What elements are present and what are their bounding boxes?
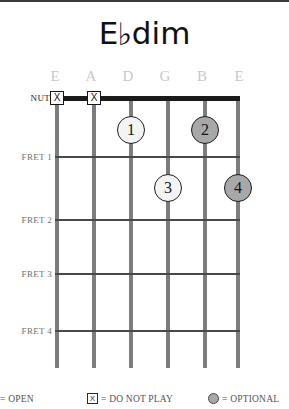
legend-open-label: = OPEN bbox=[0, 394, 34, 404]
mute-marker-string-2[interactable]: X bbox=[87, 91, 101, 105]
string-label-4: G bbox=[154, 68, 176, 85]
fret-line-4 bbox=[55, 330, 240, 332]
nut-label: NUT bbox=[0, 93, 50, 103]
finger-dot-3[interactable]: 3 bbox=[154, 174, 182, 202]
fret-line-1 bbox=[55, 156, 240, 158]
string-line-2 bbox=[92, 96, 96, 368]
legend-optional-label: = OPTIONAL bbox=[219, 394, 279, 404]
fret-label-4: FRET 4 bbox=[0, 326, 52, 336]
legend-item-optional: = OPTIONAL bbox=[208, 393, 279, 406]
finger-dot-4[interactable]: 4 bbox=[224, 174, 252, 202]
string-line-6 bbox=[236, 96, 240, 368]
legend-mute-label: = DO NOT PLAY bbox=[98, 394, 173, 404]
string-label-1: E bbox=[44, 68, 66, 85]
string-label-5: B bbox=[191, 68, 213, 85]
fret-label-3: FRET 3 bbox=[0, 269, 52, 279]
finger-dot-2[interactable]: 2 bbox=[191, 116, 219, 144]
fret-label-2: FRET 2 bbox=[0, 215, 52, 225]
nut-line bbox=[55, 96, 240, 101]
fret-line-3 bbox=[55, 273, 240, 275]
fret-label-1: FRET 1 bbox=[0, 152, 52, 162]
string-line-1 bbox=[55, 96, 59, 368]
legend-item-do-not-play: X= DO NOT PLAY bbox=[87, 393, 173, 406]
mute-marker-string-1[interactable]: X bbox=[50, 91, 64, 105]
legend-item-open: = OPEN bbox=[0, 393, 34, 406]
string-line-4 bbox=[166, 96, 170, 368]
x-box-icon: X bbox=[87, 393, 98, 404]
filled-circle-icon bbox=[208, 393, 219, 404]
string-label-3: D bbox=[117, 68, 139, 85]
legend: = OPEN X= DO NOT PLAY = OPTIONAL bbox=[0, 393, 289, 409]
string-label-6: E bbox=[228, 68, 250, 85]
fret-line-2 bbox=[55, 219, 240, 221]
string-label-2: A bbox=[80, 68, 102, 85]
finger-dot-1[interactable]: 1 bbox=[117, 116, 145, 144]
chord-diagram: E A D G B E NUT FRET 1 FRET 2 FRET 3 FRE… bbox=[0, 0, 289, 409]
